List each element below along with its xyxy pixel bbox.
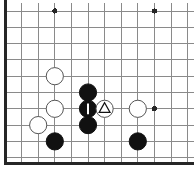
stone-black-3[interactable]	[79, 117, 96, 134]
stone-white-4[interactable]	[96, 100, 113, 117]
star-point-top-right	[152, 8, 157, 13]
go-board-canvas[interactable]	[0, 0, 194, 170]
white-stone[interactable]	[46, 100, 63, 117]
stone-black-4[interactable]	[46, 133, 63, 150]
white-stone[interactable]	[46, 68, 63, 85]
stone-black-5[interactable]	[129, 133, 146, 150]
white-stone[interactable]	[30, 117, 47, 134]
black-stone[interactable]	[79, 84, 96, 101]
go-board-diagram	[0, 0, 194, 170]
board-background	[0, 0, 194, 170]
black-stone[interactable]	[46, 133, 63, 150]
star-point-center-right	[152, 106, 157, 111]
stone-white-3[interactable]	[30, 117, 47, 134]
stone-black-1[interactable]	[79, 84, 96, 101]
white-stone[interactable]	[129, 100, 146, 117]
stone-white-5[interactable]	[129, 100, 146, 117]
black-stone[interactable]	[79, 117, 96, 134]
star-point-top-left	[52, 8, 57, 13]
stone-white-1[interactable]	[46, 68, 63, 85]
stone-black-2[interactable]	[79, 100, 96, 117]
black-stone[interactable]	[129, 133, 146, 150]
stone-white-2[interactable]	[46, 100, 63, 117]
